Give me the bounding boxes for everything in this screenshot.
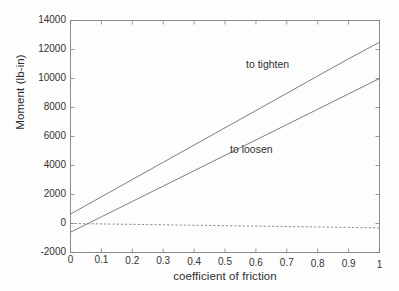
y-tick-label: 8000 [20, 101, 66, 112]
x-tick-label: 1 [363, 259, 397, 270]
x-tick-label: 0.7 [270, 257, 304, 268]
axis-ticks [71, 21, 380, 253]
y-tick-label: 6000 [20, 130, 66, 141]
figure-page: -200002000400060008000100001200014000 00… [0, 0, 399, 291]
x-tick-label: 0.8 [301, 258, 335, 269]
series-annotation-to-loosen: to loosen [230, 143, 273, 155]
x-tick-label: 0.6 [239, 257, 273, 268]
y-tick-label: 14000 [20, 14, 66, 25]
axes-border [71, 21, 380, 253]
x-tick-label: 0.1 [84, 254, 118, 265]
y-axis-title: Moment (lb-in) [14, 32, 26, 152]
y-tick-label: 12000 [20, 43, 66, 54]
axes-frame [71, 21, 380, 253]
chart-figure: -200002000400060008000100001200014000 00… [0, 0, 399, 291]
y-tick-label: 0 [20, 217, 66, 228]
series-line-to-loosen [71, 79, 380, 233]
y-tick-label: 10000 [20, 72, 66, 83]
series-line-to-tighten [71, 42, 380, 214]
x-tick-label: 0.4 [177, 256, 211, 267]
x-tick-label: 0.5 [208, 256, 242, 267]
series-line-zero-reference [71, 224, 380, 228]
x-axis-title: coefficient of friction [70, 270, 380, 282]
y-tick-label: 4000 [20, 159, 66, 170]
x-tick-label: 0.2 [115, 255, 149, 266]
x-tick-label: 0 [54, 254, 88, 265]
x-tick-label: 0.3 [146, 255, 180, 266]
data-series-layer [71, 42, 380, 232]
y-tick-label: 2000 [20, 188, 66, 199]
x-tick-label: 0.9 [332, 258, 366, 269]
x-axis-tick-labels: 00.10.20.30.40.50.60.70.80.91 [0, 254, 399, 270]
series-annotation-to-tighten: to tighten [246, 58, 289, 70]
